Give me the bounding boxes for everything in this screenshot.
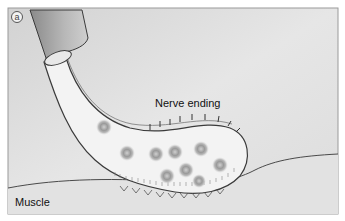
- neuromuscular-junction-diagram: a Nerve ending Muscle: [0, 0, 345, 221]
- illustration: [0, 0, 345, 221]
- nerve-ending-label: Nerve ending: [155, 97, 220, 109]
- panel-label: a: [11, 11, 23, 23]
- muscle-label: Muscle: [15, 196, 50, 208]
